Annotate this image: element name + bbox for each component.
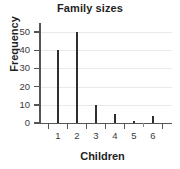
bar [57, 50, 59, 123]
chart-container: Family sizes Frequency Children 01020304… [0, 0, 180, 169]
y-axis-tick-label: 50 [8, 27, 30, 37]
x-axis-tick [67, 123, 68, 129]
x-axis-tick [162, 123, 163, 129]
y-axis-tick [34, 122, 39, 123]
x-axis-tick [124, 123, 125, 129]
x-axis-tick-label: 1 [51, 130, 65, 141]
x-axis-tick-label: 3 [89, 130, 103, 141]
y-axis-tick-label: 20 [8, 82, 30, 92]
x-axis-tick-label: 4 [108, 130, 122, 141]
y-axis-tick-label: 10 [8, 100, 30, 110]
bar [152, 116, 154, 123]
bar [76, 32, 78, 123]
bar [95, 105, 97, 123]
y-axis-tick-label: 30 [8, 63, 30, 73]
x-axis-tick [143, 123, 144, 127]
y-axis-tick [34, 68, 39, 69]
y-axis-tick [34, 86, 39, 87]
y-axis-tick [34, 31, 39, 32]
x-axis-tick-label: 5 [127, 130, 141, 141]
y-axis-tick [34, 104, 39, 105]
y-axis-line [39, 23, 41, 124]
chart-title: Family sizes [0, 2, 180, 15]
bar [133, 121, 135, 123]
x-axis-tick-label: 2 [70, 130, 84, 141]
x-axis-tick [86, 123, 87, 129]
x-axis-tick [105, 123, 106, 129]
bar [114, 114, 116, 123]
x-axis-tick-label: 6 [146, 130, 160, 141]
gridline [39, 32, 172, 33]
y-axis-tick-label: 40 [8, 45, 30, 55]
x-axis-tick [48, 123, 49, 129]
y-axis-tick-label: 0 [8, 118, 30, 128]
y-axis-tick [34, 50, 39, 51]
x-axis-label: Children [30, 150, 175, 162]
